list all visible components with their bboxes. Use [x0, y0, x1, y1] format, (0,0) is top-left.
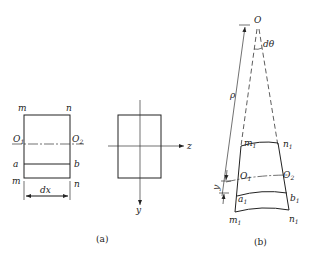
y-offset-arrow-bottom — [223, 194, 224, 204]
label-dx: dx — [40, 185, 51, 195]
label-rho: ρ — [229, 90, 236, 100]
figure-a-cross-section: z y — [108, 100, 192, 215]
label-n1-top: n1 — [283, 139, 293, 150]
label-b1: b1 — [290, 193, 300, 204]
label-o-center: O — [254, 15, 262, 25]
label-m-top: m — [18, 103, 27, 113]
label-y: y — [135, 205, 142, 215]
caption-a: (a) — [96, 234, 108, 244]
curve-m1n1-bottom — [235, 208, 289, 212]
label-dtheta: dθ — [263, 39, 275, 49]
label-m-bottom: m — [12, 176, 21, 186]
angle-arc — [254, 48, 262, 49]
cross-section-rect — [118, 115, 161, 178]
label-n-bottom: n — [74, 179, 80, 189]
figure-a-element: m n O1 O2 a b m n dx — [12, 103, 84, 200]
label-o2: O2 — [72, 134, 83, 145]
beam-element-rect — [24, 115, 70, 178]
y-offset-arrow-top — [226, 170, 227, 180]
label-m1-bottom: m1 — [229, 215, 241, 226]
label-o1-b: O1 — [240, 171, 251, 182]
label-b: b — [74, 159, 80, 169]
label-z: z — [186, 141, 192, 151]
label-n-top: n — [66, 103, 72, 113]
label-y-offset: y — [210, 183, 221, 192]
label-o1: O1 — [13, 134, 24, 145]
caption-b: (b) — [254, 237, 267, 247]
curve-a1b1 — [237, 192, 287, 196]
radial-line-left — [241, 29, 257, 146]
label-n1-bottom: n1 — [289, 214, 299, 225]
beam-bending-diagram: m n O1 O2 a b m n dx z y (a) — [0, 0, 311, 265]
neutral-axis-curve — [226, 175, 290, 182]
label-a: a — [13, 159, 18, 169]
label-m1-top: m1 — [244, 138, 256, 149]
figure-b-bent-element: O dθ ρ m1 n1 O1 O2 a1 b1 m1 n1 y — [210, 15, 299, 226]
label-a1: a1 — [238, 194, 247, 205]
label-o2-b: O2 — [283, 170, 294, 181]
